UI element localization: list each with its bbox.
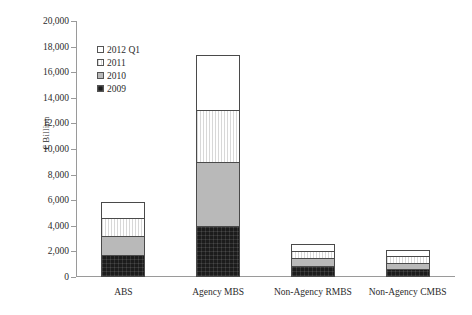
stacked-bar[interactable] (291, 245, 335, 277)
legend-item-2010[interactable]: 2010 (97, 69, 140, 82)
legend-swatch-icon (97, 59, 104, 66)
category-label-non-agency-cmbs: Non-Agency CMBS (348, 287, 468, 297)
tick-mark (71, 226, 76, 227)
tick-label: 0 (64, 272, 69, 282)
bar-segment-2009[interactable] (101, 255, 145, 277)
tick-mark (71, 149, 76, 150)
bar-segment-2011[interactable] (101, 218, 145, 236)
tick-label: 16,000 (43, 67, 69, 77)
stacked-bar-chart: € Billion 02,0004,0006,0008,00010,00012,… (0, 0, 472, 315)
tick-label: 4,000 (48, 221, 69, 231)
legend-label: 2011 (107, 58, 126, 68)
tick-mark (71, 98, 76, 99)
bar-segment-2011[interactable] (196, 110, 240, 163)
tick-label: 12,000 (43, 118, 69, 128)
legend-item-2009[interactable]: 2009 (97, 82, 140, 95)
tick-label: 10,000 (43, 144, 69, 154)
stacked-bar[interactable] (196, 56, 240, 277)
tick-label: 20,000 (43, 16, 69, 26)
tick-mark (71, 21, 76, 22)
bar-segment-2009[interactable] (386, 269, 430, 277)
tick-mark (71, 72, 76, 73)
tick-mark (71, 175, 76, 176)
tick-mark (71, 123, 76, 124)
y-axis-line (76, 21, 77, 277)
legend-item-2011[interactable]: 2011 (97, 56, 140, 69)
tick-label: 2,000 (48, 246, 69, 256)
legend-rows: 2012 Q1201120102009 (97, 43, 140, 95)
tick-mark (71, 47, 76, 48)
bar-segment-2012-q1[interactable] (196, 55, 240, 110)
legend: 2012 Q1201120102009 (97, 43, 140, 95)
tick-mark (71, 277, 76, 278)
legend-swatch-icon (97, 85, 104, 92)
legend-label: 2009 (107, 84, 126, 94)
bar-segment-2010[interactable] (101, 236, 145, 256)
legend-swatch-icon (97, 72, 104, 79)
bar-segment-2009[interactable] (291, 266, 335, 277)
stacked-bar[interactable] (101, 203, 145, 277)
legend-item-2012-q1[interactable]: 2012 Q1 (97, 43, 140, 56)
legend-swatch-icon (97, 46, 104, 53)
y-axis-title: € Billion (41, 93, 51, 173)
bar-segment-2012-q1[interactable] (101, 202, 145, 219)
tick-mark (71, 251, 76, 252)
bar-segment-2009[interactable] (196, 226, 240, 277)
stacked-bar[interactable] (386, 251, 430, 277)
tick-label: 14,000 (43, 93, 69, 103)
tick-label: 6,000 (48, 195, 69, 205)
bar-segment-2010[interactable] (196, 162, 240, 227)
tick-label: 18,000 (43, 42, 69, 52)
tick-label: 8,000 (48, 170, 69, 180)
legend-label: 2012 Q1 (107, 45, 140, 55)
legend-label: 2010 (107, 71, 126, 81)
tick-mark (71, 200, 76, 201)
